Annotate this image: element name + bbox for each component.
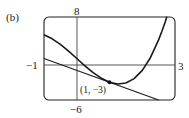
x-max-label: 3 <box>178 60 184 72</box>
x-min-label: −1 <box>26 59 38 71</box>
chart: (b) 8 −6 −1 3 (1, −3) <box>0 0 189 118</box>
plot-frame <box>44 17 175 100</box>
curve-line <box>44 17 167 84</box>
y-max-label: 8 <box>74 5 80 17</box>
panel-label: (b) <box>6 11 19 24</box>
point-label: (1, −3) <box>80 85 106 96</box>
y-min-label: −6 <box>70 103 82 115</box>
tangent-point-marker <box>108 80 112 84</box>
